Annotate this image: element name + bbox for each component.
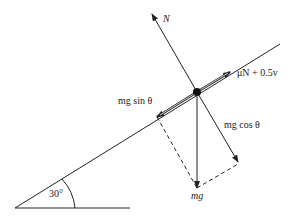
inclined-plane-diagram: N μN + 0.5v mg sin θ mg cos θ mg 30°: [0, 0, 297, 219]
diagram-canvas: [0, 0, 297, 219]
normal-force-label: N: [163, 14, 170, 24]
friction-label: μN + 0.5v: [237, 68, 278, 78]
weight-label: mg: [191, 191, 203, 201]
angle-label: 30°: [49, 189, 63, 199]
dashed-line-2: [197, 164, 238, 188]
mg-cos-label: mg cos θ: [224, 120, 260, 130]
block-point: [193, 88, 201, 96]
normal-force-arrow: [152, 14, 197, 92]
mg-sin-label: mg sin θ: [118, 96, 152, 106]
dashed-line-1: [157, 117, 197, 188]
angle-arc: [62, 179, 75, 208]
